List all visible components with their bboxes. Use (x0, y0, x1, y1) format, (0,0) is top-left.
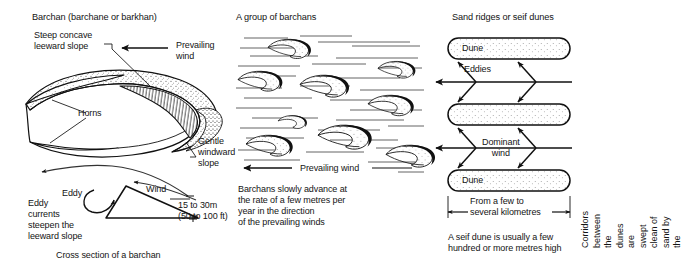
seif-dune-illustration (436, 38, 572, 218)
label-leeward-slope: Steep concave leeward slope (34, 30, 92, 52)
side-note-corridors: Corridors between the dunes are swept cl… (580, 211, 684, 248)
label-prevailing-wind: Prevailing wind (176, 40, 215, 62)
label-seif-scale: From a few to several kilometres (470, 196, 541, 218)
heading-group-of-barchans: A group of barchans (236, 12, 316, 23)
label-eddies: Eddies (464, 64, 491, 75)
label-dune-bottom: Dune (462, 175, 483, 186)
label-dominant-wind: Dominant wind (482, 137, 520, 159)
label-dune-top: Dune (462, 43, 483, 54)
label-horns: Horns (78, 108, 102, 119)
label-windward-slope: Gentle windward slope (198, 136, 235, 169)
caption-cross-section: Cross section of a barchan (56, 250, 160, 261)
small-barchans (238, 39, 435, 167)
label-group-prevailing-wind: Prevailing wind (300, 163, 359, 174)
heading-barchan: Barchan (barchane or barkhan) (32, 12, 157, 23)
label-dune-height-metric: 15 to 30m (178, 200, 217, 211)
label-dune-height-imperial: (50 to 100 ft) (178, 211, 228, 222)
label-eddy-currents: Eddy currents steepen the leeward slope (28, 198, 82, 242)
heading-seif-dunes: Sand ridges or seif dunes (452, 12, 554, 23)
caption-barchan-advance: Barchans slowly advance at the rate of a… (238, 184, 347, 228)
caption-seif-height: A seif dune is usually a few hundred or … (448, 232, 561, 254)
barchan-group-illustration (236, 36, 435, 172)
label-wind: Wind (146, 184, 166, 195)
